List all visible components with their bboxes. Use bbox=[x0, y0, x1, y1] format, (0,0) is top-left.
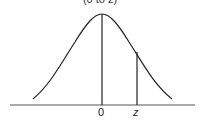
normal-curve-diagram bbox=[0, 0, 200, 121]
z-label: z bbox=[133, 106, 139, 118]
zero-label: 0 bbox=[98, 106, 104, 118]
